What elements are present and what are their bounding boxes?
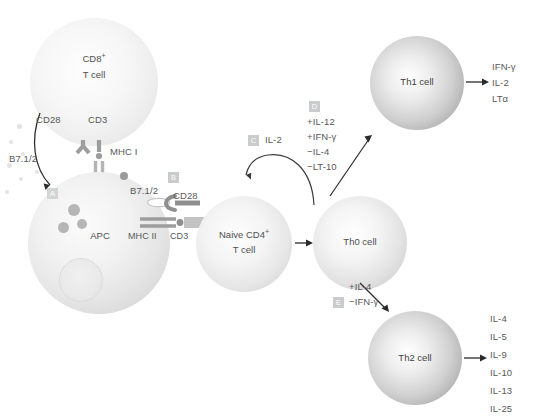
diagram-canvas: CD8+ T cell CD28 CD3 MHC I B7.1/2 A APC xyxy=(0,0,536,419)
th2-output-4: IL-13 xyxy=(490,385,512,396)
th2-output-arrow xyxy=(0,0,536,419)
th2-output-1: IL-5 xyxy=(490,331,507,342)
th2-output-0: IL-4 xyxy=(490,313,507,324)
th2-output-2: IL-9 xyxy=(490,349,507,360)
th2-output-3: IL-10 xyxy=(490,367,512,378)
th2-output-5: IL-25 xyxy=(490,403,512,414)
